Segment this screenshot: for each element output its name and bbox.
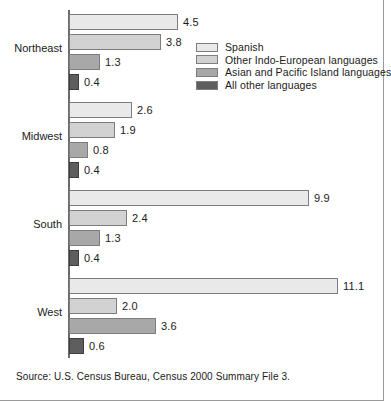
value-label-midwest-spanish: 2.6 <box>137 102 153 118</box>
bar-south-spanish <box>69 190 309 206</box>
value-label-midwest-other-indo-european: 1.9 <box>120 122 136 138</box>
value-label-west-spanish: 11.1 <box>343 278 364 294</box>
bar-midwest-asian-pacific <box>69 142 88 158</box>
bar-northeast-all-other <box>69 74 79 90</box>
legend-item-all-other: All other languages <box>196 79 376 92</box>
bar-south-asian-pacific <box>69 230 100 246</box>
chart-legend: Spanish Other Indo-European languages As… <box>196 41 376 91</box>
bar-west-asian-pacific <box>69 318 156 334</box>
legend-label-all-other: All other languages <box>225 79 317 91</box>
value-label-midwest-asian-pacific: 0.8 <box>93 142 109 158</box>
group-label-northeast: Northeast <box>2 42 62 54</box>
legend-swatch-all-other <box>196 81 218 90</box>
bar-midwest-spanish <box>69 102 132 118</box>
bar-south-other-indo-european <box>69 210 127 226</box>
value-label-south-spanish: 9.9 <box>314 190 330 206</box>
bar-midwest-other-indo-european <box>69 122 115 138</box>
value-label-south-other-indo-european: 2.4 <box>132 210 148 226</box>
bar-midwest-all-other <box>69 162 79 178</box>
value-label-northeast-other-indo-european: 3.8 <box>166 34 182 50</box>
bar-group-south: South 9.9 2.4 1.3 0.4 <box>68 186 370 272</box>
bar-northeast-asian-pacific <box>69 54 100 70</box>
legend-item-spanish: Spanish <box>196 41 376 54</box>
value-label-northeast-spanish: 4.5 <box>183 14 199 30</box>
legend-label-spanish: Spanish <box>225 41 264 53</box>
source-note: Source: U.S. Census Bureau, Census 2000 … <box>16 371 290 382</box>
value-label-west-all-other: 0.6 <box>89 338 105 354</box>
bar-group-midwest: Midwest 2.6 1.9 0.8 0.4 <box>68 98 370 184</box>
legend-swatch-spanish <box>196 43 218 52</box>
value-label-northeast-all-other: 0.4 <box>84 74 100 90</box>
legend-item-asian-pacific: Asian and Pacific Island languages <box>196 66 376 79</box>
value-label-west-asian-pacific: 3.6 <box>161 318 177 334</box>
bar-group-west: West 11.1 2.0 3.6 0.6 <box>68 274 370 360</box>
legend-swatch-asian-pacific <box>196 68 218 77</box>
value-label-northeast-asian-pacific: 1.3 <box>105 54 121 70</box>
value-label-south-all-other: 0.4 <box>84 250 100 266</box>
legend-item-other-indo-european: Other Indo-European languages <box>196 54 376 67</box>
bar-west-all-other <box>69 338 84 354</box>
bar-south-all-other <box>69 250 79 266</box>
bar-northeast-spanish <box>69 14 178 30</box>
value-label-south-asian-pacific: 1.3 <box>105 230 121 246</box>
bar-northeast-other-indo-european <box>69 34 161 50</box>
group-label-midwest: Midwest <box>2 130 62 142</box>
bar-west-other-indo-european <box>69 298 117 314</box>
legend-swatch-other-indo-european <box>196 55 218 64</box>
group-label-south: South <box>2 218 62 230</box>
legend-label-other-indo-european: Other Indo-European languages <box>225 54 378 66</box>
group-label-west: West <box>2 306 62 318</box>
legend-label-asian-pacific: Asian and Pacific Island languages <box>225 66 391 78</box>
bar-west-spanish <box>69 278 338 294</box>
value-label-midwest-all-other: 0.4 <box>84 162 100 178</box>
value-label-west-other-indo-european: 2.0 <box>122 298 138 314</box>
